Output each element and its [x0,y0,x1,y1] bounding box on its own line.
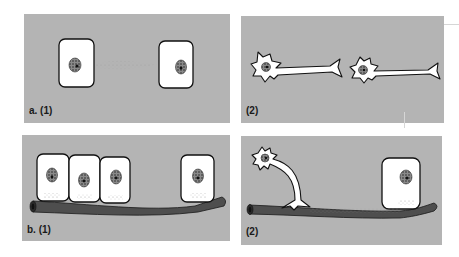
b1-cell-1 [37,154,69,201]
a1-cell-right [159,41,193,88]
panel-label-a1: a. (1) [29,105,52,116]
a2-neuron-left [251,52,342,82]
panel-label-b2: (2) [246,226,258,237]
b1-cell-4 [181,155,214,202]
b2-cell [382,158,420,209]
b1-cell-2 [69,155,100,202]
a1-diffusion-signal [95,61,158,69]
b2-neuron [252,147,310,210]
b1-cell-3 [100,157,130,203]
nucleus-icon [47,168,58,182]
a2-neuron-right [350,57,440,83]
panel-label-b1: b. (1) [27,224,51,235]
b2-vessel-stipple [310,208,400,213]
a1-cell-left [59,39,94,87]
nucleus-icon [69,58,81,72]
diagram-art [0,0,459,257]
panel-label-a2: (2) [246,105,258,116]
nucleus-icon [193,169,204,183]
